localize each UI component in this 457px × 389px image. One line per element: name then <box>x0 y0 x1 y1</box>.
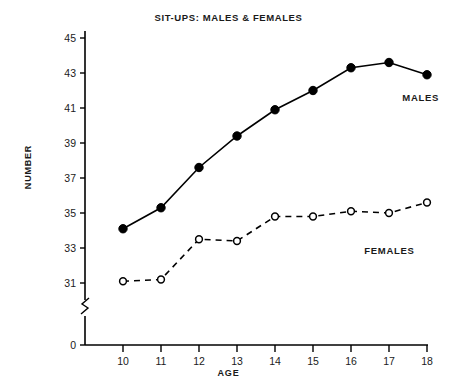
axis-break-icon <box>81 298 89 314</box>
x-tick-label: 12 <box>193 355 205 367</box>
axes-group <box>80 31 428 352</box>
chart-container: SIT-UPS: MALES & FEMALES NUMBER AGE 3133… <box>0 0 457 389</box>
y-tick-label: 43 <box>40 67 76 79</box>
chart-title: SIT-UPS: MALES & FEMALES <box>0 12 457 23</box>
x-tick-label: 18 <box>421 355 433 367</box>
data-point-males-14 <box>271 106 279 114</box>
x-tick-label: 11 <box>156 355 167 367</box>
series-label-females: FEMALES <box>364 245 414 256</box>
data-point-females-11 <box>158 276 165 283</box>
data-point-females-14 <box>272 213 279 220</box>
data-point-females-13 <box>234 238 241 245</box>
y-tick-label: 33 <box>40 242 76 254</box>
data-point-females-18 <box>424 199 431 206</box>
y-tick-label: 39 <box>40 137 76 149</box>
y-tick-label: 35 <box>40 207 76 219</box>
data-point-males-18 <box>423 71 431 79</box>
data-point-males-10 <box>119 225 127 233</box>
x-axis-title: AGE <box>0 368 457 378</box>
data-point-females-12 <box>196 236 203 243</box>
plot-area <box>0 0 457 389</box>
y-axis-title: NUMBER <box>23 145 33 189</box>
x-tick-label: 10 <box>117 355 129 367</box>
data-point-females-17 <box>386 210 393 217</box>
x-tick-label: 13 <box>231 355 243 367</box>
data-point-females-16 <box>348 208 355 215</box>
series-line-males <box>123 63 427 229</box>
data-point-males-13 <box>233 132 241 140</box>
data-point-females-10 <box>120 278 127 285</box>
y-origin-label: 0 <box>40 339 76 351</box>
data-point-males-17 <box>385 58 393 66</box>
data-point-males-12 <box>195 163 203 171</box>
y-tick-label: 41 <box>40 102 76 114</box>
x-tick-label: 14 <box>269 355 281 367</box>
x-tick-label: 15 <box>307 355 319 367</box>
x-tick-label: 17 <box>383 355 395 367</box>
y-tick-label: 45 <box>40 32 76 44</box>
series-label-males: MALES <box>402 92 439 103</box>
data-point-males-15 <box>309 86 317 94</box>
data-point-males-11 <box>157 204 165 212</box>
y-tick-label: 31 <box>40 277 76 289</box>
data-point-females-15 <box>310 213 317 220</box>
x-tick-label: 16 <box>345 355 357 367</box>
y-tick-label: 37 <box>40 172 76 184</box>
data-point-males-16 <box>347 64 355 72</box>
